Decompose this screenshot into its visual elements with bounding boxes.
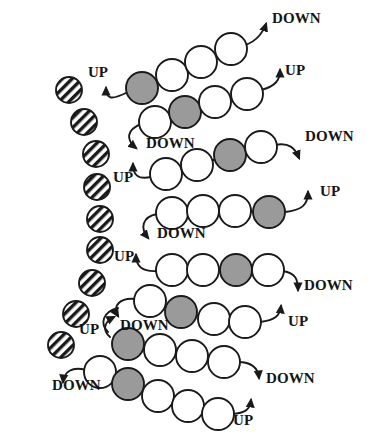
grey-bead [214,139,246,171]
hatched-bead [79,270,105,296]
direction-label-down: DOWN [52,377,101,393]
grey-bead [220,254,252,286]
direction-label-up: UP [285,62,305,78]
hatched-bead [48,332,74,358]
grey-bead [253,196,285,228]
white-bead [142,380,174,412]
grey-bead [169,96,201,128]
hatched-bead [56,77,82,103]
white-bead [198,303,230,335]
diagram-canvas: UPDOWNUPDOWNDOWNUPUPDOWNUPDOWNUPDOWNUPDO… [0,0,379,438]
direction-label-down: DOWN [305,128,354,144]
white-bead [187,195,219,227]
direction-label-down: DOWN [146,135,195,151]
white-bead [181,149,213,181]
white-bead [202,398,234,430]
white-bead [229,306,261,338]
white-bead [187,254,219,286]
grey-bead [126,72,158,104]
direction-label-down: DOWN [272,10,321,26]
white-bead [199,86,231,118]
white-bead [150,158,182,190]
white-bead [231,78,263,110]
folded-chain-diagram: UPDOWNUPDOWNDOWNUPUPDOWNUPDOWNUPDOWNUPDO… [0,0,379,438]
white-bead [219,195,251,227]
white-bead [144,334,176,366]
hatched-bead [87,237,113,263]
white-bead [208,346,240,378]
white-bead [134,285,166,317]
white-bead [176,340,208,372]
hatched-bead [87,206,113,232]
hatched-bead [83,141,109,167]
white-bead [215,33,247,65]
grey-bead [165,296,197,328]
direction-label-down: DOWN [120,317,169,333]
white-bead [139,106,171,138]
direction-label-up: UP [288,313,308,329]
white-bead [252,254,284,286]
white-bead [172,390,204,422]
direction-label-down: DOWN [304,277,353,293]
direction-label-up: UP [88,64,108,80]
white-bead [156,59,188,91]
direction-label-up: UP [233,412,253,428]
direction-label-up: UP [79,321,99,337]
direction-label-up: UP [320,183,340,199]
grey-bead [112,368,144,400]
hatched-bead [71,109,97,135]
direction-label-down: DOWN [157,225,206,241]
hatched-bead [84,174,110,200]
white-bead [156,254,188,286]
direction-label-up: UP [113,169,133,185]
white-bead [245,131,277,163]
direction-label-down: DOWN [266,370,315,386]
white-bead [185,46,217,78]
direction-label-up: UP [114,248,134,264]
